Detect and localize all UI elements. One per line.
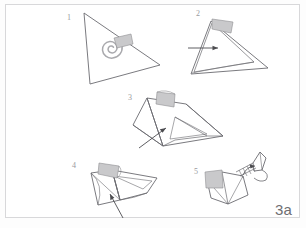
step-5-number: 5 bbox=[194, 167, 198, 176]
step-5-figure bbox=[205, 152, 267, 204]
step-2-flap bbox=[212, 19, 233, 33]
origami-diagram-artwork bbox=[0, 0, 306, 228]
step-1-flap bbox=[114, 34, 133, 48]
step-3-left-face bbox=[133, 98, 163, 146]
step-4-arrow bbox=[110, 194, 123, 218]
step-2-figure bbox=[188, 19, 268, 74]
step-5-beak bbox=[254, 170, 267, 181]
step-5-flap bbox=[205, 170, 223, 188]
step-2-arrow bbox=[188, 46, 218, 50]
step-4-inner-triangle bbox=[114, 176, 152, 189]
step-4-number: 4 bbox=[72, 161, 76, 170]
step-3-ridge bbox=[186, 104, 223, 136]
step-3-figure bbox=[133, 91, 223, 148]
step-5-head-crease bbox=[260, 152, 262, 170]
step-3-left-edge bbox=[133, 125, 163, 146]
step-2-number: 2 bbox=[196, 9, 200, 18]
step-3-flap bbox=[156, 92, 175, 107]
step-1-number: 1 bbox=[67, 13, 71, 22]
step-4-flap bbox=[98, 163, 119, 178]
instruction-plate: 1 2 3 4 5 3a bbox=[0, 0, 306, 228]
step-4-figure bbox=[91, 163, 157, 218]
step-3-number: 3 bbox=[128, 93, 132, 102]
step-3-inner-triangle bbox=[170, 117, 207, 139]
step-1-figure bbox=[84, 13, 160, 84]
step-5-body-crease-c bbox=[228, 176, 243, 204]
plate-label: 3a bbox=[275, 201, 292, 218]
